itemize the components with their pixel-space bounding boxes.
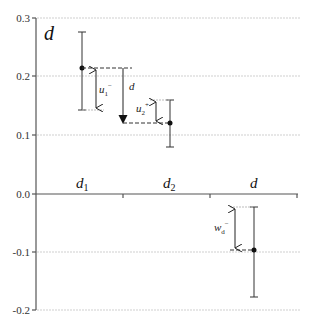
chart-title-d: d xyxy=(44,22,55,44)
category-labels: d1 d2 d xyxy=(76,175,258,193)
category-label-d1: d1 xyxy=(76,175,89,193)
annotation-u2: u2+ xyxy=(136,101,149,117)
category-label-d: d xyxy=(250,175,258,191)
annotation-u1: u1− xyxy=(99,82,112,98)
category-label-d2: d2 xyxy=(163,175,176,193)
y-tick-neg0.2: -0.2 xyxy=(13,304,30,316)
data-point-d2 xyxy=(168,121,173,126)
annotation-w: wd− xyxy=(214,220,229,236)
y-tick-labels: 0.3 0.2 0.1 0.0 -0.1 -0.2 xyxy=(13,12,31,316)
y-tick-0.3: 0.3 xyxy=(16,12,30,24)
annotation-d: d xyxy=(129,80,135,92)
y-axis xyxy=(32,18,36,310)
y-tick-neg0.1: -0.1 xyxy=(13,246,30,258)
y-tick-0.1: 0.1 xyxy=(16,129,30,141)
gridlines xyxy=(37,18,300,310)
error-bar-chart: 0.3 0.2 0.1 0.0 -0.1 -0.2 d1 d2 d d u1− … xyxy=(0,0,310,324)
y-tick-0.2: 0.2 xyxy=(16,70,30,82)
error-bar-d1 xyxy=(78,32,86,110)
x-axis xyxy=(36,194,298,198)
y-tick-0.0: 0.0 xyxy=(16,188,30,200)
